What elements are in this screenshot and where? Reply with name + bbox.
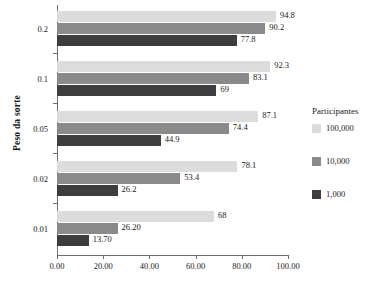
- x-tick-mark: [196, 255, 197, 259]
- plot-area: 94.890.277.892.383.16987.174.444.978.153…: [57, 5, 288, 255]
- y-tick-label: 0.05: [8, 124, 48, 134]
- legend-swatch-icon: [312, 124, 321, 133]
- bar-value-label: 69: [220, 84, 229, 95]
- bar-chart: Peso da sorte 94.890.277.892.383.16987.1…: [0, 0, 383, 292]
- legend-title: Participantes: [312, 106, 382, 116]
- bar[interactable]: [57, 35, 237, 46]
- bar-row[interactable]: 26.20: [57, 223, 288, 234]
- bar[interactable]: [57, 135, 161, 146]
- legend-item[interactable]: 100,000: [312, 123, 382, 133]
- bar-row[interactable]: 83.1: [57, 73, 288, 84]
- bar[interactable]: [57, 61, 270, 72]
- y-tick-mark: [53, 153, 57, 154]
- bar-value-label: 92.3: [274, 60, 289, 71]
- bar-row[interactable]: 44.9: [57, 135, 288, 146]
- legend-item-label: 100,000: [326, 123, 354, 133]
- bar-row[interactable]: 90.2: [57, 23, 288, 34]
- bar[interactable]: [57, 23, 265, 34]
- bar-row[interactable]: 26.2: [57, 185, 288, 196]
- bar[interactable]: [57, 123, 229, 134]
- bar-row[interactable]: 92.3: [57, 61, 288, 72]
- bar-group: 94.890.277.8: [57, 11, 288, 47]
- x-tick-mark: [288, 255, 289, 259]
- bar-value-label: 13.70: [93, 234, 112, 245]
- bar[interactable]: [57, 73, 249, 84]
- legend-item[interactable]: 1,000: [312, 189, 382, 199]
- x-tick-label: 0.00: [34, 261, 80, 271]
- bar-value-label: 90.2: [269, 22, 284, 33]
- y-tick-label: 0.2: [8, 24, 48, 34]
- bar[interactable]: [57, 161, 237, 172]
- bar[interactable]: [57, 173, 180, 184]
- bar[interactable]: [57, 11, 276, 22]
- x-tick-label: 40.00: [126, 261, 172, 271]
- legend-swatch-icon: [312, 190, 321, 199]
- bar-value-label: 26.2: [122, 184, 137, 195]
- bar[interactable]: [57, 235, 89, 246]
- bar[interactable]: [57, 223, 118, 234]
- y-tick-label: 0.02: [8, 174, 48, 184]
- bar-value-label: 77.8: [241, 34, 256, 45]
- bar-group: 92.383.169: [57, 61, 288, 97]
- y-tick-label: 0.01: [8, 224, 48, 234]
- x-tick-label: 100.00: [265, 261, 311, 271]
- bar-row[interactable]: 13.70: [57, 235, 288, 246]
- x-tick-mark: [242, 255, 243, 259]
- x-tick-mark: [149, 255, 150, 259]
- bar[interactable]: [57, 211, 214, 222]
- y-tick-label: 0.1: [8, 74, 48, 84]
- legend-item-label: 1,000: [326, 189, 345, 199]
- bar-value-label: 68: [218, 210, 227, 221]
- x-axis-line: [57, 255, 288, 256]
- legend-item[interactable]: 10,000: [312, 156, 382, 166]
- bar-row[interactable]: 78.1: [57, 161, 288, 172]
- bar-value-label: 74.4: [233, 122, 248, 133]
- bar-row[interactable]: 94.8: [57, 11, 288, 22]
- y-axis-title: Peso da sorte: [12, 78, 22, 168]
- bar-group: 87.174.444.9: [57, 111, 288, 147]
- x-tick-label: 80.00: [219, 261, 265, 271]
- bar-value-label: 53.4: [184, 172, 199, 183]
- bar-row[interactable]: 53.4: [57, 173, 288, 184]
- x-tick-label: 20.00: [80, 261, 126, 271]
- bar-group: 78.153.426.2: [57, 161, 288, 197]
- legend-swatch-icon: [312, 157, 321, 166]
- legend: Participantes 100,00010,0001,000: [312, 106, 382, 222]
- y-tick-mark: [53, 203, 57, 204]
- bar-group: 6826.2013.70: [57, 211, 288, 247]
- x-tick-mark: [57, 255, 58, 259]
- bar-value-label: 87.1: [262, 110, 277, 121]
- bar-row[interactable]: 77.8: [57, 35, 288, 46]
- bar-row[interactable]: 74.4: [57, 123, 288, 134]
- legend-item-label: 10,000: [326, 156, 349, 166]
- bar[interactable]: [57, 85, 216, 96]
- bar-row[interactable]: 87.1: [57, 111, 288, 122]
- bar-value-label: 83.1: [253, 72, 268, 83]
- bar-row[interactable]: 68: [57, 211, 288, 222]
- bar[interactable]: [57, 111, 258, 122]
- bar-value-label: 26.20: [122, 222, 141, 233]
- y-tick-mark: [53, 103, 57, 104]
- x-tick-label: 60.00: [173, 261, 219, 271]
- bar-row[interactable]: 69: [57, 85, 288, 96]
- bar-value-label: 78.1: [241, 160, 256, 171]
- bar-value-label: 44.9: [165, 134, 180, 145]
- bar-value-label: 94.8: [280, 10, 295, 21]
- y-tick-mark: [53, 53, 57, 54]
- bar[interactable]: [57, 185, 118, 196]
- x-tick-mark: [103, 255, 104, 259]
